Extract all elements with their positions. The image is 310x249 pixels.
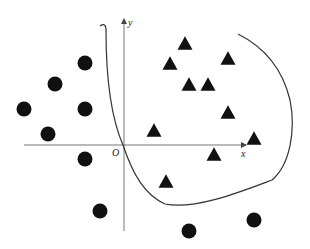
- y-axis-label: y: [127, 17, 133, 28]
- circle-point: [78, 102, 93, 117]
- triangle-class-points: [147, 36, 262, 188]
- classification-diagram: O x y: [0, 0, 310, 249]
- triangle-point: [201, 77, 216, 91]
- circle-point: [247, 213, 262, 228]
- circle-point: [48, 77, 63, 92]
- triangle-point: [163, 56, 178, 70]
- decision-boundary-curve: [100, 25, 292, 206]
- triangle-point: [221, 105, 236, 119]
- circle-point: [93, 204, 108, 219]
- circle-point: [78, 56, 93, 71]
- circle-class-points: [17, 56, 262, 239]
- triangle-point: [178, 36, 193, 50]
- circle-point: [17, 102, 32, 117]
- origin-label: O: [112, 147, 119, 158]
- axes: O x y: [24, 17, 246, 231]
- triangle-point: [207, 147, 222, 161]
- triangle-point: [182, 77, 197, 91]
- circle-point: [41, 127, 56, 142]
- circle-point: [182, 224, 197, 239]
- x-axis-label: x: [240, 148, 246, 159]
- triangle-point: [147, 123, 162, 137]
- triangle-point: [221, 51, 236, 65]
- triangle-point: [247, 131, 262, 145]
- triangle-point: [159, 174, 174, 188]
- circle-point: [78, 152, 93, 167]
